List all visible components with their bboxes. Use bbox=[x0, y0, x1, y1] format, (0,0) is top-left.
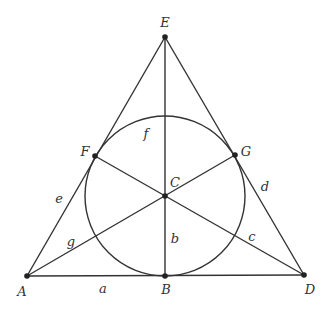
point-label-A: A bbox=[16, 284, 26, 299]
point-E bbox=[162, 34, 168, 40]
diagram-canvas: abcdegfABCDEFG bbox=[0, 0, 332, 312]
line-c bbox=[95, 156, 304, 275]
line-label-g: g bbox=[67, 234, 75, 249]
line-label-a: a bbox=[99, 281, 107, 296]
line-g bbox=[27, 155, 235, 276]
circle-label-f: f bbox=[143, 126, 151, 141]
point-label-C: C bbox=[170, 175, 180, 190]
point-D bbox=[301, 272, 307, 278]
point-B bbox=[162, 273, 168, 279]
point-label-E: E bbox=[159, 15, 170, 30]
point-F bbox=[92, 153, 98, 159]
point-C bbox=[162, 193, 168, 199]
line-label-e: e bbox=[55, 191, 63, 206]
point-label-D: D bbox=[304, 282, 316, 297]
line-label-b: b bbox=[171, 231, 179, 246]
line-label-c: c bbox=[248, 229, 256, 244]
point-label-F: F bbox=[79, 144, 90, 159]
point-label-B: B bbox=[160, 282, 171, 297]
point-A bbox=[24, 273, 30, 279]
fano-plane-diagram: abcdegfABCDEFG bbox=[0, 0, 332, 312]
line-label-d: d bbox=[261, 179, 269, 194]
point-G bbox=[232, 152, 238, 158]
point-label-G: G bbox=[241, 144, 251, 159]
